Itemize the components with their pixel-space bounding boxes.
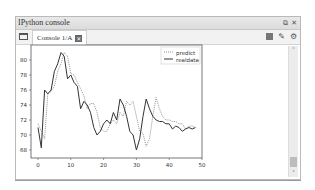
- x-tick-label: 30: [133, 162, 140, 168]
- x-tick-label: 10: [67, 162, 74, 168]
- line-chart: 68707274767880 01020304050 predict reald…: [0, 0, 315, 190]
- y-tick-label: 70: [20, 132, 27, 138]
- x-tick-label: 50: [199, 162, 206, 168]
- legend-predict-label: predict: [176, 50, 196, 57]
- y-tick-label: 74: [20, 102, 27, 108]
- legend: predict realdata: [161, 47, 200, 64]
- y-axis-ticks: 68707274767880: [20, 57, 31, 153]
- x-tick-label: 0: [36, 162, 40, 168]
- x-axis-ticks: 01020304050: [36, 158, 206, 168]
- x-tick-label: 40: [166, 162, 173, 168]
- y-tick-label: 78: [20, 72, 27, 78]
- y-tick-label: 76: [20, 87, 27, 93]
- realdata-line: [38, 53, 195, 151]
- y-tick-label: 80: [20, 57, 27, 63]
- predict-line: [38, 53, 195, 147]
- y-tick-label: 68: [20, 147, 27, 153]
- legend-realdata-label: realdata: [176, 57, 199, 63]
- x-tick-label: 20: [100, 162, 107, 168]
- y-tick-label: 72: [20, 117, 27, 123]
